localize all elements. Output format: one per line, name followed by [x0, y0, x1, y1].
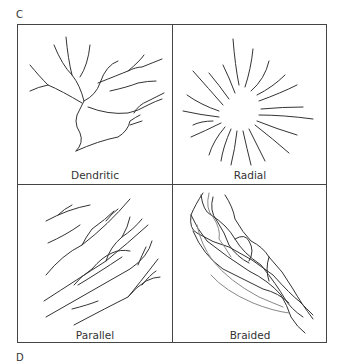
caption-parallel: Parallel — [18, 329, 172, 341]
parallel-drainage-diagram — [18, 185, 172, 343]
caption-dendritic: Dendritic — [18, 169, 172, 181]
panel-label-c: C — [16, 9, 23, 20]
cell-dendritic: Dendritic — [18, 25, 172, 184]
cell-radial: Radial — [173, 25, 327, 184]
cell-parallel: Parallel — [18, 185, 172, 344]
dendritic-drainage-diagram — [18, 25, 172, 184]
caption-braided: Braided — [173, 329, 327, 341]
drainage-patterns-grid: Dendritic Radial — [17, 24, 327, 343]
horizontal-divider — [18, 184, 326, 185]
radial-drainage-diagram — [173, 25, 327, 184]
cell-braided: Braided — [173, 185, 327, 344]
panel-label-d: D — [16, 352, 24, 363]
caption-radial: Radial — [173, 169, 327, 181]
braided-drainage-diagram — [173, 185, 327, 343]
